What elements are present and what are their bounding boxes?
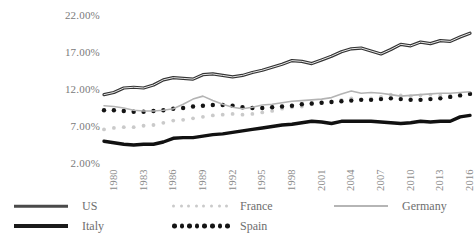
chart-legend: US Italy France Spain Germany [0,196,476,243]
x-tick-label: 2004 [345,169,356,191]
legend-key-solid-dark-line [10,199,72,213]
legend-item-italy: Italy [10,218,104,234]
x-tick-label: 2016 [464,169,475,191]
legend-item-us: US [10,198,97,214]
legend-item-germany: Germany [330,198,447,214]
legend-key-dotted-light-line [168,199,230,213]
legend-key-solid-light-line [330,199,392,213]
x-tick-label: 2010 [405,169,416,191]
x-tick-label: 1986 [167,169,178,191]
x-tick-label: 1980 [108,169,119,191]
x-tick-label: 2013 [434,169,445,191]
legend-label: France [240,199,273,214]
legend-label: Spain [240,219,267,234]
x-tick-label: 1989 [197,169,208,191]
x-tick-label: 1992 [227,169,238,191]
x-tick-label: 1998 [286,169,297,191]
x-tick-label: 2001 [316,169,327,191]
legend-label: US [82,199,97,214]
legend-label: Germany [402,199,447,214]
x-tick-label: 2007 [375,169,386,191]
x-tick-label: 1995 [256,169,267,191]
line-chart: 22.00% 17.00% 12.00% 7.00% 2.00% 1980198… [0,0,476,243]
legend-item-france: France [168,198,273,214]
legend-item-spain: Spain [168,218,267,234]
x-tick-label: 1983 [138,169,149,191]
legend-key-dotted-black-line [168,219,230,233]
legend-key-solid-thick-black-line [10,219,72,233]
legend-label: Italy [82,219,104,234]
